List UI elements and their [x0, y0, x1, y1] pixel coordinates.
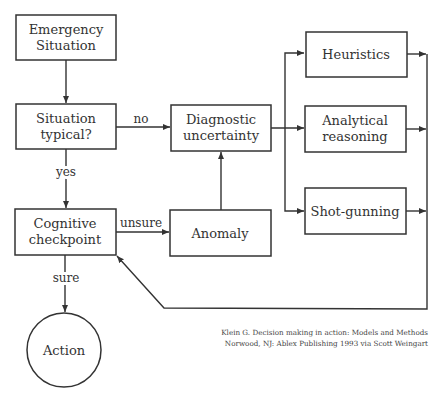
arrow-to-shotgunning [285, 128, 304, 211]
edge-label-sure: sure [53, 271, 80, 285]
connectors [65, 53, 427, 312]
node-label: reasoning [322, 129, 387, 144]
node-label: Heuristics [322, 47, 390, 62]
node-cognitive-checkpoint: Cognitive checkpoint [15, 209, 116, 255]
node-label: Shot-gunning [310, 204, 399, 219]
node-label: Anomaly [190, 226, 249, 241]
citation-line-1: Klein G. Decision making in action: Mode… [221, 328, 428, 337]
node-analytical-reasoning: Analytical reasoning [305, 106, 406, 152]
node-emergency-situation: Emergency Situation [16, 15, 116, 60]
node-shot-gunning: Shot-gunning [305, 188, 406, 234]
arrow-feedback-to-checkpoint [117, 54, 427, 309]
node-label: typical? [40, 127, 91, 142]
flowchart: no yes unsure sure Emergency Situation S… [0, 0, 441, 393]
node-label: Cognitive [33, 216, 96, 231]
node-label: Action [42, 343, 86, 358]
node-anomaly: Anomaly [170, 210, 271, 256]
node-heuristics: Heuristics [306, 32, 407, 77]
edge-label-yes: yes [55, 165, 76, 179]
edge-label-unsure: unsure [120, 216, 162, 230]
edge-label-no: no [134, 112, 149, 126]
node-diagnostic-uncertainty: Diagnostic uncertainty [171, 105, 271, 151]
node-label: checkpoint [29, 232, 102, 247]
node-label: Situation [36, 38, 97, 53]
node-label: Diagnostic [186, 112, 256, 127]
node-label: Emergency [29, 22, 104, 37]
node-action: Action [27, 313, 101, 387]
citation-line-2: Norwood, NJ: Ablex Publishing 1993 via S… [225, 339, 428, 348]
node-label: Situation [36, 111, 97, 126]
arrow-to-heuristics [285, 53, 304, 128]
node-label: uncertainty [183, 128, 260, 143]
node-situation-typical: Situation typical? [16, 104, 116, 149]
node-label: Analytical [321, 113, 388, 128]
